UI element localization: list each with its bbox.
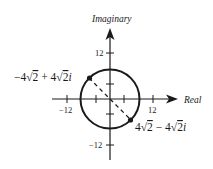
imaginary-axis-label: Imaginary [91,14,132,24]
x-tick-label-neg12: −12 [59,105,72,115]
x-tick-label-12: 12 [148,105,157,115]
real-axis-label: Real [183,95,202,105]
point-upper-left [87,75,92,80]
complex-plane-diagram: Imaginary Real −12 12 12 −12 −4√2 + 4√2i… [0,0,213,169]
y-tick-label-12: 12 [95,48,104,58]
point-lower-right [128,117,133,122]
svg-text:−4√2 + 4√2i: −4√2 + 4√2i [14,71,72,83]
svg-text:4√2 − 4√2i: 4√2 − 4√2i [135,121,186,133]
y-tick-label-neg12: −12 [89,140,102,150]
point-label-upper-left: −4√2 + 4√2i [14,71,72,83]
point-label-lower-right: 4√2 − 4√2i [135,121,186,133]
